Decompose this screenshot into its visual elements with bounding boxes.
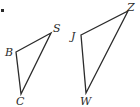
vertex-label-w: W (80, 95, 93, 107)
triangle-jzw: J Z W (69, 1, 135, 107)
vertex-label-z: Z (126, 1, 135, 14)
problem-marker (1, 9, 4, 12)
vertex-label-b: B (4, 46, 13, 59)
vertex-label-c: C (16, 95, 25, 107)
diagram-canvas: B S C J Z W (0, 0, 140, 107)
vertex-label-s: S (53, 22, 61, 35)
triangle-bsc: B S C (4, 22, 61, 107)
triangle-jzw-shape (81, 11, 128, 93)
triangle-bsc-shape (16, 33, 51, 94)
vertex-label-j: J (69, 30, 76, 43)
